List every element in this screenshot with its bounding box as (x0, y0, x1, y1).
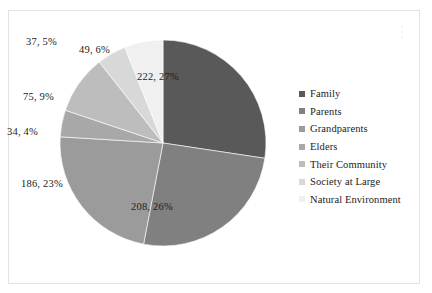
legend-item-label: Their Community (310, 159, 387, 170)
legend-item[interactable]: Natural Environment (299, 191, 425, 209)
legend-item-label: Society at Large (310, 176, 380, 187)
legend-item[interactable]: Society at Large (299, 173, 425, 191)
slice-label-family: 222, 27% (137, 71, 179, 82)
legend-item[interactable]: Their Community (299, 155, 425, 173)
legend-item-label: Parents (310, 106, 342, 117)
legend-swatch-icon (299, 196, 305, 202)
corner-artifact-icon (397, 23, 407, 53)
legend-item-label: Elders (310, 141, 337, 152)
pie-slice (163, 40, 266, 158)
legend-item-label: Family (310, 88, 340, 99)
slice-label-grandparents: 186, 23% (21, 178, 63, 189)
pie-chart-plot-area: 222, 27% 208, 26% 186, 23% 34, 4% 75, 9%… (9, 11, 421, 285)
legend-item-label: Grandparents (310, 123, 368, 134)
legend-swatch-icon (299, 108, 305, 114)
slice-label-elders: 34, 4% (7, 126, 38, 137)
legend-item[interactable]: Elders (299, 138, 425, 156)
legend-swatch-icon (299, 179, 305, 185)
legend-swatch-icon (299, 144, 305, 150)
chart-frame: 222, 27% 208, 26% 186, 23% 34, 4% 75, 9%… (8, 10, 420, 284)
slice-label-their-community: 75, 9% (23, 91, 54, 102)
slice-label-natural-environment: 49, 6% (79, 44, 110, 55)
legend-item-label: Natural Environment (310, 194, 401, 205)
chart-legend: FamilyParentsGrandparentsEldersTheir Com… (299, 85, 425, 208)
legend-item[interactable]: Parents (299, 103, 425, 121)
slice-label-society-at-large: 37, 5% (26, 36, 57, 47)
legend-item[interactable]: Family (299, 85, 425, 103)
legend-swatch-icon (299, 161, 305, 167)
pie-slice (144, 143, 265, 246)
legend-swatch-icon (299, 91, 305, 97)
legend-item[interactable]: Grandparents (299, 120, 425, 138)
slice-label-parents: 208, 26% (131, 201, 173, 212)
legend-swatch-icon (299, 126, 305, 132)
